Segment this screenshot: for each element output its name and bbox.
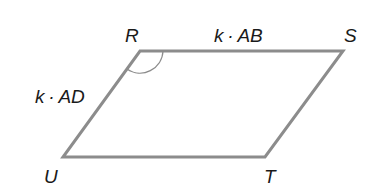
vertex-label-u: U — [44, 166, 58, 187]
parallelogram-diagram: R S T U k · AB k · AD — [0, 0, 373, 189]
side-label-left: k · AD — [35, 86, 85, 107]
parallelogram-rstu — [63, 51, 343, 157]
vertex-label-t: T — [264, 166, 277, 187]
side-label-top: k · AB — [214, 25, 263, 46]
vertex-label-s: S — [344, 25, 357, 46]
vertex-label-r: R — [125, 25, 139, 46]
